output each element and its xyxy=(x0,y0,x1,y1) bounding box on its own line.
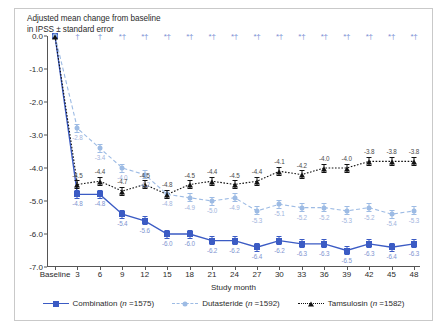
data-point-label: -4.7 xyxy=(117,178,127,185)
data-point-label: -6.3 xyxy=(297,250,307,257)
series-line xyxy=(55,36,414,251)
x-tick-label: 39 xyxy=(342,270,351,279)
data-point-label: -4.8 xyxy=(162,200,172,207)
data-point-marker xyxy=(187,183,193,188)
data-point-marker xyxy=(232,195,237,200)
data-point-marker xyxy=(321,241,327,247)
x-tick-label: 24 xyxy=(230,270,239,279)
data-point-marker xyxy=(276,169,282,174)
x-tick-label: 6 xyxy=(98,270,102,279)
legend-label: Combination (n =1575) xyxy=(73,299,155,308)
data-point-label: -6.0 xyxy=(184,240,194,247)
data-point-marker xyxy=(119,189,125,194)
data-point-label: -4.0 xyxy=(319,155,329,162)
data-point-label: -5.1 xyxy=(274,210,284,217)
data-point-label: -4.4 xyxy=(95,168,105,175)
data-point-label: -6.2 xyxy=(274,247,284,254)
x-tick-label: 21 xyxy=(208,270,217,279)
chart-legend: Combination (n =1575)Dutasteride (n =159… xyxy=(14,299,433,308)
data-point-marker xyxy=(299,241,305,247)
legend-item: Tamsulosin (n =1582) xyxy=(298,299,405,308)
data-point-label: -3.8 xyxy=(409,148,419,155)
data-point-label: -5.6 xyxy=(140,227,150,234)
x-tick-label: 42 xyxy=(365,270,374,279)
data-point-marker xyxy=(74,183,80,188)
legend-swatch xyxy=(298,300,324,308)
y-tick-label: -3.0 xyxy=(29,131,43,140)
data-point-marker xyxy=(232,183,238,188)
data-point-label: -4.5 xyxy=(229,172,239,179)
data-point-label: -5.2 xyxy=(364,214,374,221)
data-point-label: -4.5 xyxy=(72,172,82,179)
data-point-marker xyxy=(52,34,58,39)
data-point-label: -3.8 xyxy=(364,148,374,155)
data-point-marker xyxy=(276,238,282,244)
legend-item: Combination (n =1575) xyxy=(43,299,155,308)
data-point-marker xyxy=(321,166,327,171)
data-point-marker xyxy=(411,159,417,164)
data-point-marker xyxy=(322,205,327,210)
data-point-marker xyxy=(344,248,350,254)
data-point-label: -5.3 xyxy=(409,217,419,224)
legend-swatch xyxy=(43,300,69,308)
data-point-marker xyxy=(187,195,192,200)
data-point-label: -4.2 xyxy=(140,181,150,188)
x-tick-label: 36 xyxy=(320,270,329,279)
x-tick-label: 48 xyxy=(410,270,419,279)
data-point-label: -5.2 xyxy=(297,214,307,221)
data-point-label: -6.3 xyxy=(364,250,374,257)
data-point-label: -3.8 xyxy=(386,148,396,155)
data-point-label: -4.0 xyxy=(342,155,352,162)
data-point-marker xyxy=(164,192,170,197)
data-point-label: -6.5 xyxy=(342,257,352,264)
data-point-marker xyxy=(210,199,215,204)
data-point-label: -5.2 xyxy=(319,214,329,221)
data-point-marker xyxy=(344,208,349,213)
data-point-marker xyxy=(254,179,260,184)
data-point-label: -6.2 xyxy=(207,247,217,254)
data-point-marker xyxy=(97,191,103,197)
y-tick-label: -6.0 xyxy=(29,230,43,239)
data-point-marker xyxy=(299,173,305,178)
y-tick-label: -5.0 xyxy=(29,197,43,206)
data-point-marker xyxy=(412,208,417,213)
x-tick-label: 12 xyxy=(140,270,149,279)
data-point-marker xyxy=(411,241,417,247)
data-point-marker xyxy=(366,241,372,247)
data-point-label: -4.9 xyxy=(229,204,239,211)
data-point-marker xyxy=(344,166,350,171)
data-point-label: -6.3 xyxy=(409,250,419,257)
y-tick-label: -2.0 xyxy=(29,98,43,107)
data-point-label: -4.5 xyxy=(140,172,150,179)
figure-container: Adjusted mean change from baseline in IP… xyxy=(0,0,443,334)
data-point-marker xyxy=(75,126,80,131)
legend-label: Tamsulosin (n =1582) xyxy=(328,299,405,308)
data-point-marker xyxy=(389,244,395,250)
data-point-label: -4.4 xyxy=(252,168,262,175)
data-point-marker xyxy=(97,179,103,184)
data-point-marker xyxy=(119,211,125,217)
y-tick-label: -4.0 xyxy=(29,164,43,173)
data-point-label: -4.8 xyxy=(72,200,82,207)
data-point-label: -6.3 xyxy=(319,250,329,257)
data-point-marker xyxy=(366,159,372,164)
data-point-marker xyxy=(142,218,148,224)
x-tick-label: Baseline xyxy=(40,270,71,279)
data-point-label: -6.0 xyxy=(162,240,172,247)
plot-area: 0.0-1.0-2.0-3.0-4.0-5.0-6.0-7.0 Baseline… xyxy=(47,36,420,267)
data-point-label: -6.2 xyxy=(229,247,239,254)
data-point-label: -4.9 xyxy=(184,204,194,211)
data-point-marker xyxy=(254,244,260,250)
data-point-marker xyxy=(164,231,170,237)
x-tick-label: 27 xyxy=(252,270,261,279)
data-point-label: -4.4 xyxy=(207,168,217,175)
data-point-label: -4.2 xyxy=(297,162,307,169)
data-point-marker xyxy=(277,202,282,207)
data-point-label: -4.5 xyxy=(184,172,194,179)
data-point-label: -5.4 xyxy=(386,220,396,227)
data-point-marker xyxy=(97,146,102,151)
x-tick-label: 33 xyxy=(297,270,306,279)
x-axis-title: Study month xyxy=(47,283,420,292)
data-point-label: -4.1 xyxy=(274,158,284,165)
data-point-marker xyxy=(367,205,372,210)
